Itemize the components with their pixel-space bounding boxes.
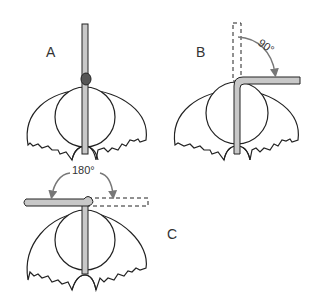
- rotation-arrow-right: [100, 173, 113, 195]
- rotation-arrow-left: [52, 173, 70, 195]
- panel-c: [24, 173, 148, 290]
- angle-label-180: 180°: [72, 164, 95, 176]
- pin-knot: [81, 73, 91, 85]
- panel-label-a: A: [46, 44, 55, 60]
- bent-pin-bar: [24, 197, 93, 207]
- original-position-dashed: [88, 198, 148, 206]
- pin-rod: [82, 24, 88, 154]
- panel-label-c: C: [167, 226, 177, 242]
- pin-rod: [82, 204, 88, 274]
- panel-label-b: B: [196, 44, 205, 60]
- panel-b: [174, 23, 300, 160]
- original-position-dashed: [233, 23, 241, 81]
